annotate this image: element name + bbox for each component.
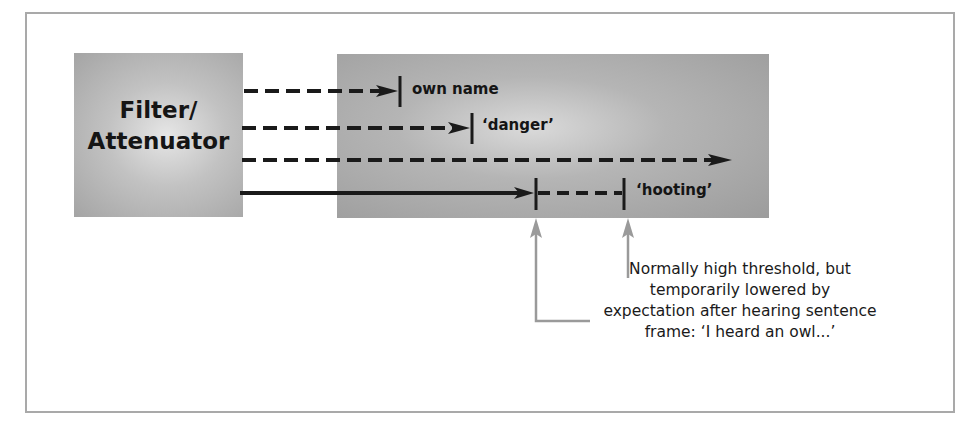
unattended-signal-line (242, 154, 732, 166)
danger-label: ‘danger’ (482, 116, 554, 134)
hooting-label: ‘hooting’ (636, 181, 712, 199)
note-line2: temporarily lowered by (585, 280, 895, 301)
own-name-label: own name (412, 80, 499, 98)
connection-lines (0, 0, 973, 447)
attended-signal-line (240, 178, 624, 210)
danger-signal-line (242, 113, 472, 144)
note-line3: expectation after hearing sentence (585, 301, 895, 322)
threshold-note: Normally high threshold, but temporarily… (585, 259, 895, 343)
note-line1: Normally high threshold, but (585, 259, 895, 280)
note-line4: frame: ‘I heard an owl...’ (585, 322, 895, 343)
own-name-signal-line (244, 76, 400, 107)
